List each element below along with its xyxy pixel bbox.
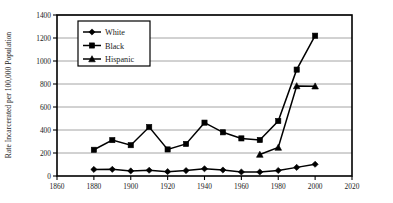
chart-legend: WhiteBlackHispanic bbox=[78, 21, 150, 66]
y-tick-label-0: 0 bbox=[47, 172, 51, 181]
x-tick-label-1940: 1940 bbox=[197, 182, 212, 191]
x-tick-label-1980: 1980 bbox=[271, 182, 286, 191]
y-tick-label-800: 800 bbox=[40, 80, 51, 89]
y-tick-label-1200: 1200 bbox=[36, 34, 51, 43]
datapoint-black-1930 bbox=[183, 141, 188, 146]
chart-background bbox=[0, 0, 393, 203]
y-tick-label-1400: 1400 bbox=[36, 11, 51, 20]
chart-figure: 0200400600800100012001400 18601880190019… bbox=[0, 0, 393, 203]
datapoint-black-1950 bbox=[220, 130, 225, 135]
x-tick-label-2000: 2000 bbox=[308, 182, 323, 191]
x-axis-tick-labels-group: 186018801900192019401960198020002020 bbox=[50, 182, 360, 191]
datapoint-black-1900 bbox=[128, 143, 133, 148]
datapoint-black-1880 bbox=[91, 147, 96, 152]
datapoint-black-1910 bbox=[147, 124, 152, 129]
legend-label-white: White bbox=[105, 28, 125, 37]
datapoint-black-2000 bbox=[313, 33, 318, 38]
datapoint-black-1920 bbox=[165, 147, 170, 152]
y-tick-label-600: 600 bbox=[40, 103, 51, 112]
x-tick-label-2020: 2020 bbox=[345, 182, 360, 191]
datapoint-black-1940 bbox=[202, 120, 207, 125]
y-tick-label-200: 200 bbox=[40, 149, 51, 158]
incarceration-rate-line-chart: 0200400600800100012001400 18601880190019… bbox=[0, 0, 393, 203]
datapoint-black-1890 bbox=[110, 138, 115, 143]
legend-marker-black bbox=[89, 43, 94, 48]
x-tick-label-1900: 1900 bbox=[123, 182, 138, 191]
x-tick-label-1860: 1860 bbox=[50, 182, 65, 191]
datapoint-black-1970 bbox=[257, 137, 262, 142]
y-tick-label-400: 400 bbox=[40, 126, 51, 135]
x-tick-label-1960: 1960 bbox=[234, 182, 249, 191]
y-axis-title: Rate Incarcerated per 100,000 Population bbox=[4, 32, 13, 159]
datapoint-black-1960 bbox=[239, 136, 244, 141]
legend-label-hispanic: Hispanic bbox=[105, 55, 134, 64]
x-tick-label-1920: 1920 bbox=[160, 182, 175, 191]
datapoint-black-1980 bbox=[276, 118, 281, 123]
x-tick-label-1880: 1880 bbox=[86, 182, 101, 191]
datapoint-black-1990 bbox=[294, 67, 299, 72]
y-tick-label-1000: 1000 bbox=[36, 57, 51, 66]
legend-label-black: Black bbox=[105, 42, 125, 51]
